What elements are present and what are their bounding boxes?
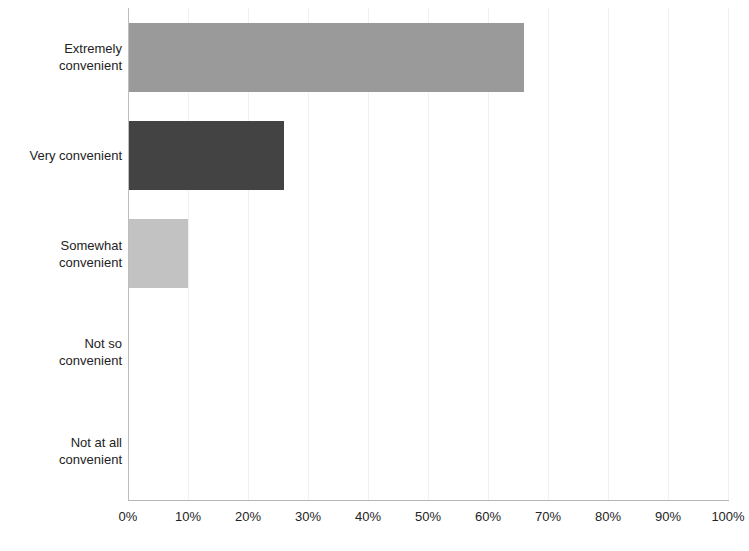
x-axis-tick-labels: 0%10%20%30%40%50%60%70%80%90%100% xyxy=(0,508,749,532)
x-axis-tick-label: 30% xyxy=(295,508,321,526)
y-axis-label: Extremelyconvenient xyxy=(0,8,122,106)
y-axis-line xyxy=(128,8,129,500)
plot-area xyxy=(128,8,729,500)
y-axis-label-line: convenient xyxy=(59,254,122,271)
bar-row xyxy=(128,106,729,204)
bar-row xyxy=(128,205,729,303)
x-axis-tick-label: 10% xyxy=(175,508,201,526)
y-axis-label-line: convenient xyxy=(59,451,122,468)
x-axis-tick-label: 0% xyxy=(119,508,138,526)
bar-chart: ExtremelyconvenientVery convenientSomewh… xyxy=(0,0,749,551)
x-axis-tick-label: 90% xyxy=(655,508,681,526)
y-axis-label-line: Somewhat xyxy=(61,237,122,254)
x-axis-tick-label: 40% xyxy=(355,508,381,526)
x-axis-line xyxy=(128,500,729,501)
y-axis-label-line: Not so xyxy=(84,335,122,352)
x-axis-tick-label: 100% xyxy=(711,508,744,526)
y-axis-label-line: Extremely xyxy=(64,40,122,57)
y-axis-label: Somewhatconvenient xyxy=(0,205,122,303)
x-axis-tick-label: 80% xyxy=(595,508,621,526)
y-axis-label: Not soconvenient xyxy=(0,303,122,401)
y-axis-label: Very convenient xyxy=(0,106,122,204)
y-axis-label-line: Very convenient xyxy=(29,147,122,164)
y-axis-label-line: convenient xyxy=(59,352,122,369)
x-axis-tick-label: 60% xyxy=(475,508,501,526)
y-axis-labels: ExtremelyconvenientVery convenientSomewh… xyxy=(0,8,122,500)
y-axis-label-line: convenient xyxy=(59,57,122,74)
x-axis-tick-label: 50% xyxy=(415,508,441,526)
y-axis-label: Not at allconvenient xyxy=(0,402,122,500)
bar xyxy=(128,23,524,92)
bar-row xyxy=(128,402,729,500)
bar xyxy=(128,219,188,288)
y-axis-label-line: Not at all xyxy=(71,434,122,451)
bar xyxy=(128,121,284,190)
bar-row xyxy=(128,8,729,106)
x-axis-tick-label: 20% xyxy=(235,508,261,526)
bar-row xyxy=(128,303,729,401)
x-axis-tick-label: 70% xyxy=(535,508,561,526)
